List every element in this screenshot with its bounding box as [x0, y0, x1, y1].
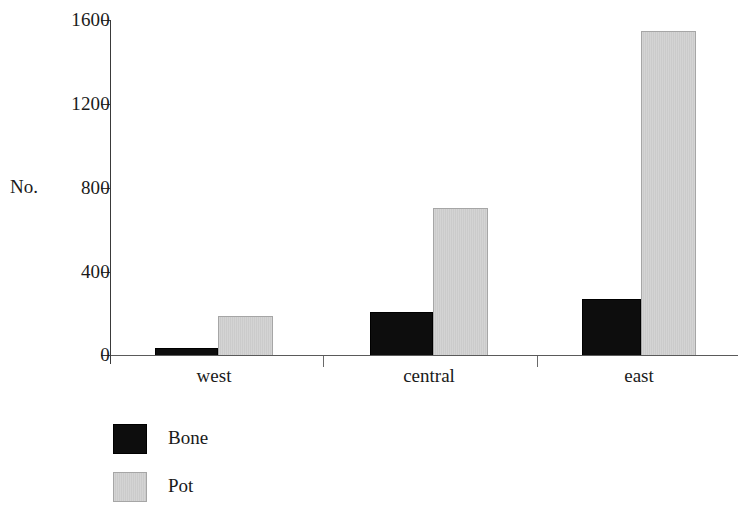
y-tick-label: 400	[18, 262, 110, 281]
bar-pot-east	[641, 31, 696, 356]
bar-bone-east	[582, 299, 641, 356]
bar-chart: 1600 1200 800 400 0 No. west central eas…	[0, 0, 741, 506]
y-tick-label: 1600	[18, 10, 110, 29]
legend-label-bone: Bone	[168, 427, 208, 449]
legend-label-pot: Pot	[168, 475, 193, 497]
bar-pot-west	[218, 316, 273, 356]
y-tick-label: 1200	[18, 94, 110, 113]
x-axis-separator-tick	[537, 356, 538, 367]
legend-swatch-bone-icon	[113, 424, 147, 454]
bar-bone-central	[370, 312, 433, 356]
bar-pot-central	[433, 208, 488, 356]
x-axis-origin-tick	[110, 348, 111, 364]
legend-swatch-pot-icon	[113, 472, 147, 502]
x-axis-line	[110, 355, 738, 356]
x-category-label-west: west	[155, 365, 273, 387]
y-axis-title: No.	[10, 177, 38, 196]
x-axis-separator-tick	[323, 356, 324, 367]
x-category-label-east: east	[582, 365, 696, 387]
x-category-label-central: central	[370, 365, 488, 387]
y-tick-label: 0	[18, 345, 110, 364]
